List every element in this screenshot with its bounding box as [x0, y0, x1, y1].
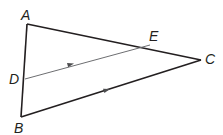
segment-bc — [21, 60, 201, 117]
segment-de — [25, 45, 150, 79]
label-e: E — [149, 28, 159, 44]
label-d: D — [9, 71, 19, 87]
triangle-diagram: A B C D E — [0, 0, 223, 135]
label-c: C — [205, 51, 216, 67]
label-a: A — [20, 7, 30, 23]
label-b: B — [14, 120, 23, 135]
segment-ab — [21, 24, 27, 117]
parallel-arrow-bc — [103, 89, 110, 93]
